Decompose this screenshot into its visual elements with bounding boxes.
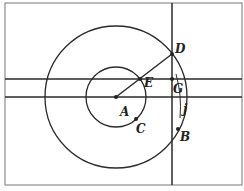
geometry-diagram: A C E D G B j — [0, 0, 244, 191]
point-G — [170, 77, 174, 81]
label-j: j — [181, 102, 188, 116]
label-E: E — [143, 76, 154, 90]
label-A: A — [119, 105, 129, 119]
label-C: C — [136, 122, 146, 136]
label-D: D — [174, 42, 186, 56]
point-D — [170, 52, 174, 56]
point-A — [114, 95, 118, 99]
label-B: B — [179, 130, 190, 144]
frame — [5, 3, 242, 185]
point-C — [134, 117, 138, 121]
point-E — [138, 77, 142, 81]
label-G: G — [173, 82, 183, 96]
